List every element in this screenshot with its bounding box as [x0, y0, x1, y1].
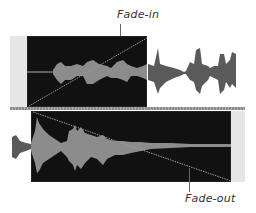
waveform-icon	[10, 111, 31, 182]
fade-in-clip[interactable]	[27, 36, 147, 107]
fade-out-leader-line	[189, 168, 190, 192]
fade-out-clip[interactable]	[31, 111, 231, 182]
fade-out-label: Fade-out	[185, 192, 235, 205]
fade-in-label: Fade-in	[117, 8, 159, 21]
lower-track-outside-waveform	[10, 111, 31, 182]
fade-out-clip-waveform	[31, 111, 231, 182]
upper-track-background	[10, 36, 27, 107]
lower-track-background	[231, 111, 245, 182]
waveform-icon	[148, 36, 245, 107]
upper-track-outside-waveform	[148, 36, 245, 107]
fade-in-clip-waveform	[27, 36, 147, 107]
track-divider	[10, 107, 245, 110]
